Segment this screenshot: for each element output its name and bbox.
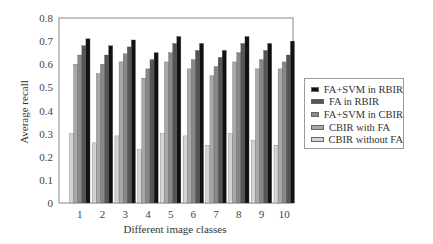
bar (142, 78, 146, 203)
bar (210, 76, 214, 203)
bar (123, 54, 127, 203)
bar (237, 53, 241, 203)
bar (259, 60, 263, 203)
bar (191, 60, 195, 203)
bar (78, 55, 82, 203)
x-axis: 12345678910 (77, 208, 290, 220)
bar (169, 53, 173, 203)
legend-item: CBIR without FA (311, 133, 403, 146)
y-tick-label: 0.5 (39, 81, 53, 93)
legend-swatch (311, 87, 319, 92)
legend-swatch (311, 99, 324, 104)
legend-label: FA+SVM in RBIR (324, 84, 403, 95)
bar (183, 136, 187, 203)
bar (214, 67, 218, 203)
legend-label: FA in RBIR (329, 96, 379, 107)
bar (200, 43, 204, 203)
x-tick-label: 10 (279, 208, 291, 220)
bar (160, 134, 164, 203)
bar (150, 60, 154, 203)
bar (177, 37, 181, 204)
bar (187, 69, 191, 203)
bar (70, 134, 74, 203)
bar (115, 136, 119, 203)
bar (109, 46, 113, 203)
bar (286, 55, 290, 203)
bar (164, 62, 168, 203)
bar (255, 69, 259, 203)
y-tick-label: 0.6 (39, 58, 53, 70)
x-tick-label: 2 (100, 208, 106, 220)
y-tick-label: 0 (48, 197, 54, 209)
y-axis-title: Average recall (18, 80, 30, 144)
x-axis-title: Different image classes (123, 223, 226, 235)
bar (290, 41, 294, 203)
bar (127, 47, 131, 203)
legend-swatch (311, 112, 319, 117)
bar (105, 55, 109, 203)
y-tick-label: 0.7 (39, 35, 53, 47)
plot-area (59, 18, 294, 203)
bar (274, 145, 278, 203)
x-tick-label: 1 (77, 208, 83, 220)
y-tick-label: 0.3 (39, 128, 53, 140)
bar (218, 57, 222, 203)
x-tick-label: 5 (168, 208, 174, 220)
bar (206, 145, 210, 203)
bar (154, 53, 158, 203)
bar (233, 62, 237, 203)
bar (195, 50, 199, 203)
legend: FA+SVM in RBIR FA in RBIR FA+SVM in CBIR… (304, 78, 404, 149)
x-tick-label: 7 (213, 208, 219, 220)
bar (241, 43, 245, 203)
bar (282, 62, 286, 203)
bar (131, 40, 135, 203)
bar (146, 69, 150, 203)
bar (229, 134, 233, 203)
x-tick-label: 9 (259, 208, 265, 220)
legend-item: FA+SVM in CBIR (311, 108, 403, 121)
x-tick-label: 4 (145, 208, 151, 220)
y-tick-label: 0.4 (39, 105, 53, 117)
bar (278, 69, 282, 203)
x-tick-label: 6 (191, 208, 197, 220)
legend-swatch (311, 125, 324, 130)
y-tick-label: 0.2 (39, 151, 53, 163)
bar (268, 43, 272, 203)
legend-item: FA in RBIR (311, 96, 403, 109)
y-tick-label: 0.1 (39, 174, 53, 186)
bar (100, 64, 104, 203)
legend-label: CBIR with FA (329, 122, 390, 133)
bar (74, 64, 78, 203)
legend-label: CBIR without FA (329, 134, 403, 145)
bar (86, 39, 90, 203)
legend-label: FA+SVM in CBIR (324, 109, 403, 120)
bar (138, 150, 142, 203)
bar (119, 62, 123, 203)
legend-item: CBIR with FA (311, 121, 403, 134)
bar (264, 50, 268, 203)
bar (173, 43, 177, 203)
bar (96, 74, 100, 204)
bar (92, 143, 96, 203)
y-tick-label: 0.8 (39, 12, 53, 24)
y-axis: 00.10.20.30.40.50.60.70.8 (39, 12, 53, 209)
legend-swatch (311, 137, 324, 142)
bar (222, 50, 226, 203)
x-tick-label: 3 (122, 208, 128, 220)
x-tick-label: 8 (236, 208, 242, 220)
legend-item: FA+SVM in RBIR (311, 83, 403, 96)
bar (251, 141, 255, 203)
bar (245, 37, 249, 204)
bar (82, 46, 86, 203)
